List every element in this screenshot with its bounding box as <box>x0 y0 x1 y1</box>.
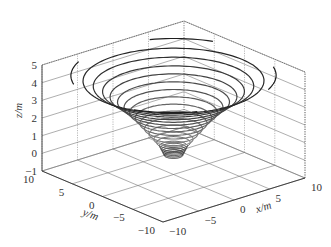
svg-text:−5: −5 <box>113 211 125 223</box>
contour-rings <box>71 39 276 159</box>
y-axis-label: y/m <box>80 205 100 222</box>
svg-text:3: 3 <box>32 94 38 106</box>
axes-grid <box>42 21 305 222</box>
svg-text:−10: −10 <box>138 224 156 236</box>
svg-text:5: 5 <box>32 59 38 71</box>
svg-text:1: 1 <box>32 130 38 142</box>
contour3d-chart: −1012345−10−50510−10−50510 z/m y/m x/m <box>0 0 331 247</box>
svg-text:−5: −5 <box>205 214 217 226</box>
svg-text:10: 10 <box>23 173 35 185</box>
contour-ring <box>118 82 230 122</box>
svg-text:−10: −10 <box>169 225 187 237</box>
svg-text:2: 2 <box>32 112 38 124</box>
svg-text:0: 0 <box>32 147 38 159</box>
svg-text:4: 4 <box>32 77 38 89</box>
x-axis-label: x/m <box>253 199 273 216</box>
svg-text:10: 10 <box>311 181 323 193</box>
svg-text:0: 0 <box>240 203 246 215</box>
svg-text:5: 5 <box>276 192 282 204</box>
svg-text:5: 5 <box>59 186 65 198</box>
z-axis-label: z/m <box>12 103 24 119</box>
